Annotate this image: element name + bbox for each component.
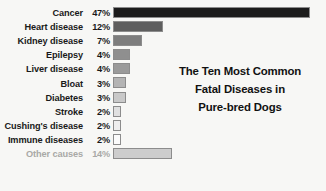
value-label: 4% [88, 50, 110, 60]
row-label-group: Cancer47% [0, 8, 110, 18]
row-label-group: Kidney disease7% [0, 36, 110, 46]
category-label: Immune diseases [8, 135, 83, 145]
row-label-group: Other causes14% [0, 149, 110, 159]
bar [113, 92, 126, 103]
row-label-group: Diabetes3% [0, 93, 110, 103]
category-label: Other causes [26, 149, 83, 159]
bar [113, 134, 121, 145]
title-line: Fatal Diseases in [160, 80, 320, 98]
bar [113, 106, 121, 117]
value-label: 3% [88, 93, 110, 103]
title-line: The Ten Most Common [160, 62, 320, 80]
bar [113, 63, 130, 74]
bar-track [110, 6, 326, 20]
row-label-group: Epilepsy4% [0, 50, 110, 60]
value-label: 2% [88, 135, 110, 145]
bar [113, 49, 130, 60]
category-label: Bloat [61, 79, 83, 89]
category-label: Heart disease [25, 22, 83, 32]
row-label-group: Bloat3% [0, 79, 110, 89]
bar-track [110, 48, 326, 62]
bar [113, 77, 126, 88]
bar [113, 7, 310, 18]
bar [113, 35, 142, 46]
chart-row: Cancer47% [0, 6, 326, 20]
value-label: 14% [88, 149, 110, 159]
category-label: Stroke [55, 107, 83, 117]
chart-title: The Ten Most CommonFatal Diseases inPure… [160, 62, 320, 116]
value-label: 2% [88, 107, 110, 117]
chart-row: Other causes14% [0, 147, 326, 161]
bar-track [110, 133, 326, 147]
bar [113, 148, 172, 159]
value-label: 3% [88, 79, 110, 89]
value-label: 12% [88, 22, 110, 32]
row-label-group: Heart disease12% [0, 22, 110, 32]
chart-row: Heart disease12% [0, 20, 326, 34]
category-label: Diabetes [46, 93, 84, 103]
chart-row: Kidney disease7% [0, 34, 326, 48]
category-label: Liver disease [26, 64, 83, 74]
title-line: Pure-bred Dogs [160, 98, 320, 116]
chart-row: Immune diseases2% [0, 133, 326, 147]
value-label: 2% [88, 121, 110, 131]
bar-track [110, 20, 326, 34]
category-label: Cancer [52, 8, 83, 18]
bar-track [110, 147, 326, 161]
row-label-group: Cushing's disease2% [0, 121, 110, 131]
chart-row: Cushing's disease2% [0, 119, 326, 133]
row-label-group: Immune diseases2% [0, 135, 110, 145]
row-label-group: Liver disease4% [0, 64, 110, 74]
bar [113, 120, 121, 131]
value-label: 7% [88, 36, 110, 46]
value-label: 47% [88, 8, 110, 18]
category-label: Kidney disease [18, 36, 84, 46]
category-label: Epilepsy [46, 50, 83, 60]
bar-chart-figure: Cancer47%Heart disease12%Kidney disease7… [0, 0, 326, 191]
bar-track [110, 119, 326, 133]
row-label-group: Stroke2% [0, 107, 110, 117]
bar [113, 21, 163, 32]
value-label: 4% [88, 64, 110, 74]
bar-track [110, 34, 326, 48]
category-label: Cushing's disease [4, 121, 83, 131]
chart-row: Epilepsy4% [0, 48, 326, 62]
